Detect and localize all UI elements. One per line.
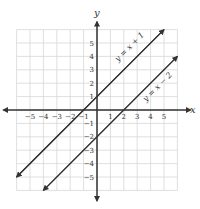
y-axis-label: y [93, 7, 100, 18]
svg-text:−5: −5 [25, 113, 35, 121]
svg-text:5: 5 [90, 40, 94, 48]
svg-text:−2: −2 [84, 133, 94, 141]
svg-text:2: 2 [90, 80, 94, 88]
svg-text:1: 1 [108, 113, 112, 121]
svg-text:−4: −4 [84, 160, 95, 168]
svg-text:4: 4 [90, 53, 95, 61]
svg-text:4: 4 [148, 113, 153, 121]
axes [3, 22, 191, 202]
svg-text:5: 5 [162, 113, 166, 121]
svg-text:2: 2 [122, 113, 126, 121]
svg-text:−4: −4 [38, 113, 49, 121]
svg-text:−5: −5 [84, 174, 94, 182]
svg-text:−3: −3 [52, 113, 62, 121]
svg-text:3: 3 [90, 66, 94, 74]
line-label-1: y = x + 1 [112, 30, 146, 64]
line-label-2: y = x − 2 [140, 70, 174, 104]
svg-text:3: 3 [135, 113, 139, 121]
x-axis-label: x [190, 104, 196, 115]
svg-text:−1: −1 [84, 120, 94, 128]
coordinate-plane: −5−4−3−2−11234554321−1−2−3−4−5 x y y = x… [0, 0, 200, 209]
